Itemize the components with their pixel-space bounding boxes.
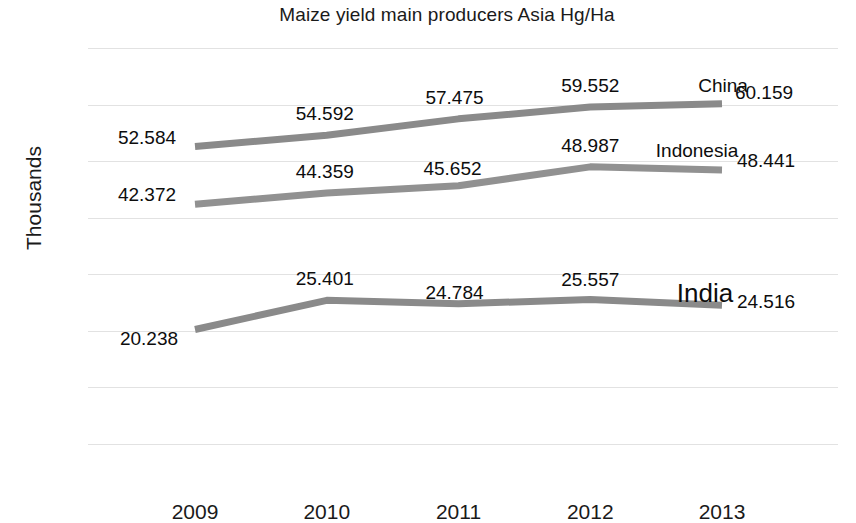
data-point-label: 24.516 xyxy=(737,292,795,311)
series-name-label: India xyxy=(677,280,733,306)
data-point-label: 57.475 xyxy=(425,87,483,106)
series-lines xyxy=(88,48,838,444)
series-line xyxy=(195,299,722,329)
x-tick-label: 2010 xyxy=(257,500,397,523)
x-tick-label: 2011 xyxy=(389,500,529,523)
data-point-label: 25.401 xyxy=(296,269,354,288)
data-point-label: 52.584 xyxy=(118,127,176,146)
data-point-label: 59.552 xyxy=(561,76,619,95)
gridline xyxy=(88,444,838,445)
series-name-label: China xyxy=(698,76,748,95)
data-point-label: 48.987 xyxy=(561,135,619,154)
x-tick-label: 2013 xyxy=(652,500,792,523)
data-point-label: 25.557 xyxy=(561,270,619,289)
data-point-label: 24.784 xyxy=(425,282,483,301)
data-point-label: 44.359 xyxy=(296,162,354,181)
data-point-label: 42.372 xyxy=(118,185,176,204)
data-point-label: 48.441 xyxy=(737,150,795,169)
series-name-label: Indonesia xyxy=(656,141,738,160)
x-tick-label: 2012 xyxy=(520,500,660,523)
data-point-label: 54.592 xyxy=(296,104,354,123)
x-tick-label: 2009 xyxy=(125,500,265,523)
chart-title: Maize yield main producers Asia Hg/Ha xyxy=(0,4,856,26)
data-point-label: 20.238 xyxy=(120,328,178,347)
data-point-label: 45.652 xyxy=(423,158,481,177)
plot-area: 706050403020100 20092010201120122013 52.… xyxy=(88,48,838,444)
y-axis-title: Thousands xyxy=(22,78,46,318)
series-line xyxy=(195,104,722,147)
